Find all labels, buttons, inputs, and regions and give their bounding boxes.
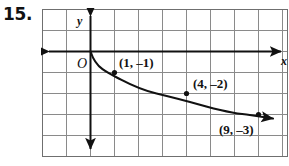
data-point-label-1: (1, –1): [119, 55, 154, 70]
data-point-label-2: (4, –2): [193, 76, 228, 91]
problem-number: 15.: [3, 6, 32, 23]
x-axis-label: x: [280, 54, 287, 68]
data-point-9-neg3: [256, 112, 261, 117]
data-point-4-neg2: [184, 91, 189, 96]
worksheet-figure-page: 15.: [0, 0, 289, 166]
data-point-label-3: (9, –3): [219, 122, 254, 137]
origin-label: O: [77, 56, 87, 71]
square-root-curve: [91, 52, 274, 119]
coordinate-graph: y x O (1, –1) (4, –2) (9, –3): [41, 8, 289, 158]
y-axis-label: y: [75, 14, 83, 28]
graph-canvas: y x O (1, –1) (4, –2) (9, –3): [41, 8, 289, 158]
data-point-1-neg1: [112, 70, 117, 75]
